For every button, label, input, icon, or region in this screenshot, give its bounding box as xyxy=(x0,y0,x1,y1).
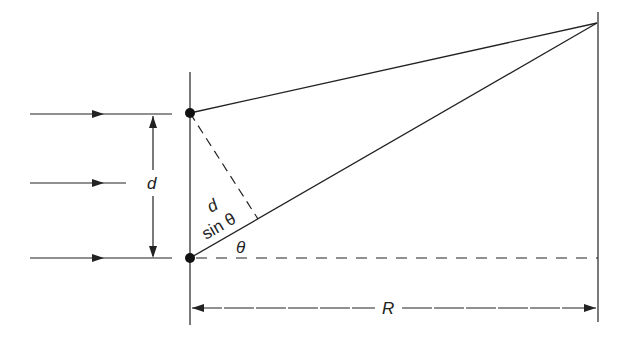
path-difference-label-bottom: sin θ xyxy=(199,209,240,243)
ray-arrow-bottom-icon xyxy=(92,254,104,262)
slit-separation-label: d xyxy=(147,174,157,193)
dimension-arrow-up-icon xyxy=(149,116,157,128)
double-slit-diagram: d d sin θ θ R xyxy=(0,0,628,346)
dimension-arrow-down-icon xyxy=(149,246,157,258)
dimension-arrow-left-icon xyxy=(192,304,204,312)
angle-label: θ xyxy=(236,238,246,257)
bottom-slit xyxy=(185,253,195,263)
dimension-arrow-right-icon xyxy=(584,304,596,312)
top-slit xyxy=(185,108,195,118)
ray-from-top-slit xyxy=(190,23,597,113)
path-difference-label-top: d xyxy=(204,195,222,216)
ray-arrow-middle-icon xyxy=(92,179,104,187)
path-difference-perpendicular xyxy=(190,113,258,219)
ray-from-bottom-slit xyxy=(190,23,597,258)
ray-arrow-top-icon xyxy=(92,110,104,118)
distance-label: R xyxy=(382,299,394,318)
